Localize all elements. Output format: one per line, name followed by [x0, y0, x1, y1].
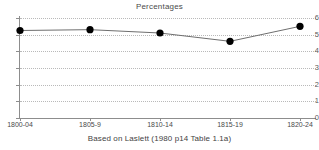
y-tick-label: 4: [303, 47, 319, 54]
x-tick-label: 1800-04: [0, 121, 45, 129]
x-tick-label: 1815-19: [205, 121, 255, 129]
y-tick-label: 3: [303, 64, 319, 71]
x-axis-caption: Based on Laslett (1980 p14 Table 1.1a): [0, 134, 319, 143]
y-tick-label: 0: [303, 114, 319, 121]
x-tick-label: 1805-9: [65, 121, 115, 129]
plot-area: [20, 18, 316, 118]
y-gridline: [20, 18, 316, 19]
x-tick-label: 1820-24: [275, 121, 319, 129]
y-tick-mark: [16, 18, 19, 19]
x-axis-line: [19, 118, 316, 119]
y-tick-label: 5: [303, 31, 319, 38]
y-tick-label: 6: [303, 14, 319, 21]
x-tick-label: 1810-14: [135, 121, 185, 129]
chart-title: Percentages: [0, 2, 319, 11]
y-gridline: [20, 85, 316, 86]
y-tick-mark: [16, 85, 19, 86]
y-tick-mark: [16, 35, 19, 36]
y-tick-mark: [16, 68, 19, 69]
y-tick-label: 1: [303, 97, 319, 104]
y-gridline: [20, 68, 316, 69]
y-gridline: [20, 35, 316, 36]
y-tick-mark: [16, 101, 19, 102]
y-tick-mark: [16, 51, 19, 52]
y-gridline: [20, 51, 316, 52]
y-gridline: [20, 101, 316, 102]
chart-figure: Percentages Based on Laslett (1980 p14 T…: [0, 0, 319, 150]
y-tick-mark: [16, 118, 19, 119]
y-tick-label: 2: [303, 81, 319, 88]
